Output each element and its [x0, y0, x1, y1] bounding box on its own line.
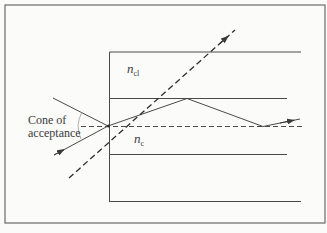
guided-ray-arrow — [280, 120, 294, 123]
escaping-ray-arrow — [220, 36, 228, 43]
core-index-subscript: c — [141, 139, 145, 148]
cladding-index-label: ncl — [127, 62, 139, 80]
cladding-index-subscript: cl — [134, 69, 140, 78]
guided-ray — [108, 99, 300, 127]
core-index-label: nc — [134, 132, 144, 150]
entry-point — [107, 124, 110, 127]
cone-label-line2: acceptance — [28, 127, 78, 140]
cone-of-acceptance-label: Cone of acceptance — [28, 114, 78, 140]
incoming-ray-arrow — [54, 150, 64, 155]
diagram-canvas: Cone of acceptance ncl nc — [0, 0, 327, 233]
